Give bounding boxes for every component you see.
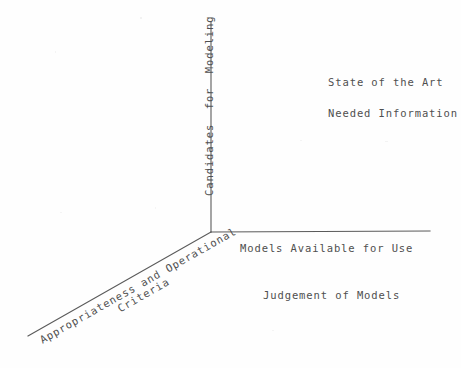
annotation-judgement-of-models: Judgement of Models xyxy=(263,290,400,301)
annotation-state-of-the-art: State of the Art xyxy=(328,77,444,88)
figure-canvas: Candidates for Modeling Appropriateness … xyxy=(0,0,461,368)
diagonal-axis-label-line2: Criteria xyxy=(43,235,243,355)
horizontal-axis-label: Models Available for Use xyxy=(240,243,413,254)
horizontal-axis-line xyxy=(211,231,430,232)
axes-group xyxy=(0,0,461,368)
diagonal-axis-label: Appropriateness and OperationalCriteria xyxy=(38,226,244,355)
diagonal-axis-line xyxy=(28,232,211,336)
annotation-needed-information: Needed Information xyxy=(328,108,458,119)
vertical-axis-label: Candidates for Modeling xyxy=(204,15,215,196)
scan-speckle-overlay xyxy=(0,0,461,368)
diagonal-axis-label-line1: Appropriateness and Operational xyxy=(38,225,239,346)
